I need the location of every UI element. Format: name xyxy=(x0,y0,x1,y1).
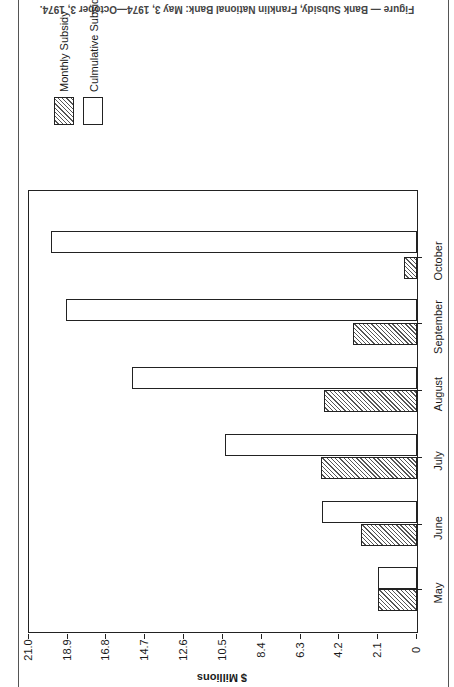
axis-tick-label: 14.7 xyxy=(138,635,150,665)
month-tick-june xyxy=(414,524,422,525)
bar-may-cumulative xyxy=(378,567,417,589)
bar-july-cumulative xyxy=(225,434,417,456)
bar-june-cumulative xyxy=(322,501,417,523)
axis-tick-label: 12.6 xyxy=(177,635,189,665)
month-label-august: August xyxy=(432,364,444,424)
bar-may-monthly xyxy=(378,589,417,611)
axis-tick-label: 4.2 xyxy=(332,635,344,665)
month-label-june: June xyxy=(432,498,444,558)
axis-tick-label: 10.5 xyxy=(216,635,228,665)
month-label-september: September xyxy=(432,297,444,357)
legend-label-cumulative: Culmulative Subsidy xyxy=(88,0,100,92)
bar-september-cumulative xyxy=(66,299,417,321)
bar-july-monthly xyxy=(321,457,417,479)
bar-october-monthly xyxy=(404,257,417,279)
month-tick-september xyxy=(414,323,422,324)
month-label-july: July xyxy=(432,431,444,491)
page-border-right xyxy=(448,0,449,687)
axis-tick-label: 6.3 xyxy=(294,635,306,665)
month-label-october: October xyxy=(432,231,444,291)
page-border-left xyxy=(18,0,19,687)
legend-label-monthly: Monthly Subsidy xyxy=(58,11,70,92)
bar-august-cumulative xyxy=(132,367,417,389)
value-axis-title: $ Millions xyxy=(0,672,444,684)
axis-tick-label: 16.8 xyxy=(99,635,111,665)
axis-tick-label: 2.1 xyxy=(371,635,383,665)
bar-june-monthly xyxy=(361,524,417,546)
bar-october-cumulative xyxy=(51,231,417,253)
axis-tick-label: 0 xyxy=(410,635,422,665)
axis-tick-label: 18.9 xyxy=(61,635,73,665)
legend-swatch-monthly xyxy=(54,97,74,125)
month-tick-august xyxy=(414,390,422,391)
month-tick-may xyxy=(414,589,422,590)
month-tick-october xyxy=(414,257,422,258)
axis-tick-label: 8.4 xyxy=(255,635,267,665)
month-tick-july xyxy=(414,457,422,458)
bar-september-monthly xyxy=(353,323,417,345)
axis-tick-label: 21.0 xyxy=(22,635,34,665)
month-label-may: May xyxy=(432,563,444,623)
legend-swatch-cumulative xyxy=(83,97,103,125)
bar-august-monthly xyxy=(324,390,417,412)
